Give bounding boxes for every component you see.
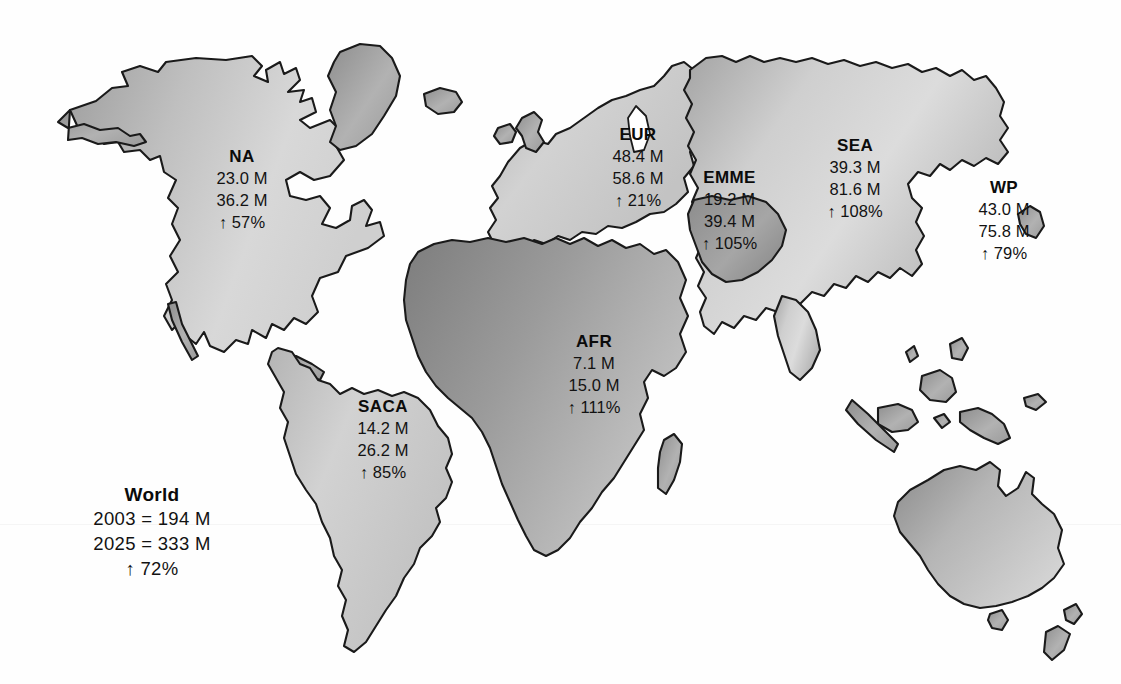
region-label-sea: SEA 39.3 M 81.6 M ↑ 108% <box>785 135 925 223</box>
region-2003-sea: 39.3 M <box>785 157 925 179</box>
region-label-saca: SACA 14.2 M 26.2 M ↑ 85% <box>313 396 453 484</box>
region-label-wp: WP 43.0 M 75.8 M ↑ 79% <box>934 177 1074 265</box>
landmass-island-cluster-a <box>934 414 950 428</box>
region-label-na: NA 23.0 M 36.2 M ↑ 57% <box>172 146 312 234</box>
region-2025-emme: 39.4 M <box>657 211 802 233</box>
landmass-iceland <box>424 88 462 114</box>
region-code-na: NA <box>172 146 312 168</box>
region-code-emme: EMME <box>657 167 802 189</box>
region-2003-emme: 19.2 M <box>657 189 802 211</box>
region-2025-sea: 81.6 M <box>785 179 925 201</box>
world-map-figure: NA 23.0 M 36.2 M ↑ 57% SACA 14.2 M 26.2 … <box>0 0 1121 684</box>
world-total-block: World 2003 = 194 M 2025 = 333 M ↑ 72% <box>42 482 262 582</box>
region-change-sea: ↑ 108% <box>785 201 925 223</box>
world-total-2025: 2025 = 333 M <box>42 532 262 557</box>
landmass-british-isles <box>516 112 544 152</box>
region-label-afr: AFR 7.1 M 15.0 M ↑ 111% <box>524 331 664 419</box>
region-change-saca: ↑ 85% <box>313 462 453 484</box>
region-change-na: ↑ 57% <box>172 212 312 234</box>
world-total-title: World <box>42 482 262 507</box>
landmass-philippines <box>950 338 968 360</box>
region-2003-afr: 7.1 M <box>524 353 664 375</box>
landmass-new-zealand <box>1064 604 1082 624</box>
landmass-australia <box>894 462 1064 608</box>
region-change-afr: ↑ 111% <box>524 397 664 419</box>
landmass-borneo <box>920 370 956 402</box>
landmass-india <box>774 296 820 380</box>
landmass-papua-new-guinea <box>960 408 1010 444</box>
region-code-afr: AFR <box>524 331 664 353</box>
region-2003-saca: 14.2 M <box>313 418 453 440</box>
region-2025-wp: 75.8 M <box>934 221 1074 243</box>
landmass-indonesia <box>878 404 918 432</box>
landmass-greenland <box>328 44 400 150</box>
region-code-saca: SACA <box>313 396 453 418</box>
landmass-island-cluster-c <box>906 346 918 362</box>
world-total-change: ↑ 72% <box>42 557 262 582</box>
region-code-wp: WP <box>934 177 1074 199</box>
region-2025-saca: 26.2 M <box>313 440 453 462</box>
region-2025-na: 36.2 M <box>172 190 312 212</box>
landmass-island-cluster-b <box>1024 394 1046 410</box>
landmass-new-zealand-south <box>1044 626 1070 660</box>
landmass-south-america <box>268 348 452 652</box>
region-code-eur: EUR <box>568 124 708 146</box>
region-change-emme: ↑ 105% <box>657 233 802 255</box>
region-change-wp: ↑ 79% <box>934 243 1074 265</box>
world-total-2003: 2003 = 194 M <box>42 507 262 532</box>
landmass-madagascar <box>658 434 682 494</box>
region-label-emme: EMME 19.2 M 39.4 M ↑ 105% <box>657 167 802 255</box>
region-2003-wp: 43.0 M <box>934 199 1074 221</box>
landmass-tasmania <box>988 610 1008 630</box>
region-2003-na: 23.0 M <box>172 168 312 190</box>
region-2025-afr: 15.0 M <box>524 375 664 397</box>
region-code-sea: SEA <box>785 135 925 157</box>
region-2003-eur: 48.4 M <box>568 146 708 168</box>
landmass-ireland <box>494 124 516 144</box>
